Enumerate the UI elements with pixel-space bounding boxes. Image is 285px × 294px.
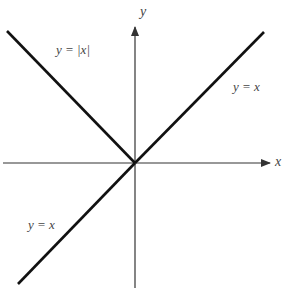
y-axis-label: y [140,4,146,20]
graph-canvas [0,0,285,294]
abs-function-label: y = |x| [56,42,90,58]
x-axis-label: x [275,154,281,170]
identity-upper-label: y = x [233,79,260,95]
identity-lower-label: y = x [28,217,55,233]
identity-upper-branch [135,32,264,163]
